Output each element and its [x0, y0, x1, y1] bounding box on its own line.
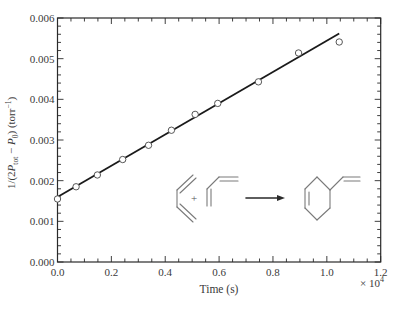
x-tick-label: 0.6 — [212, 266, 226, 278]
x-tick-label: 0.4 — [158, 266, 172, 278]
x-multiplier-base: × 10 — [360, 277, 380, 289]
chart: 0.00.20.40.60.81.01.20.0000.0010.0020.00… — [0, 0, 398, 310]
axis-tick-labels: 0.00.20.40.60.81.01.20.0000.0010.0020.00… — [30, 12, 388, 278]
butadiene-molecule-2 — [207, 177, 238, 206]
data-point-circle — [215, 100, 221, 106]
plot-border — [58, 18, 381, 262]
x-tick-label: 0.8 — [266, 266, 280, 278]
y-tick-label: 0.001 — [30, 215, 55, 227]
y-tick-label: 0.006 — [30, 12, 55, 24]
data-point-circle — [255, 79, 261, 85]
data-point-circle — [336, 39, 342, 45]
data-point-circle — [94, 172, 100, 178]
axis-ticks — [58, 18, 381, 262]
reaction-arrow-icon — [246, 195, 285, 201]
data-point-circle — [295, 50, 301, 56]
y-axis-label: 1/(2Ptot − P0) (torr−1) — [4, 97, 20, 190]
reaction-plus-sign: + — [191, 192, 197, 204]
x-multiplier: × 104 — [360, 275, 384, 289]
vinylcyclohexene-molecule — [305, 177, 360, 220]
y-tick-label: 0.002 — [30, 175, 55, 187]
data-point-circle — [54, 196, 60, 202]
x-axis-label: Time (s) — [200, 283, 239, 296]
y-tick-label: 0.005 — [30, 53, 55, 65]
data-points — [54, 39, 342, 202]
y-tick-label: 0.003 — [30, 134, 55, 146]
reaction-scheme-inset — [177, 175, 360, 222]
data-point-circle — [73, 184, 79, 190]
x-tick-label: 0.2 — [104, 266, 118, 278]
y-tick-label: 0.000 — [30, 256, 55, 268]
x-multiplier-exp: 4 — [380, 275, 384, 284]
data-point-circle — [192, 111, 198, 117]
data-point-circle — [119, 156, 125, 162]
data-point-circle — [145, 142, 151, 148]
y-tick-label: 0.004 — [30, 93, 55, 105]
data-point-circle — [168, 127, 174, 133]
x-tick-label: 1.0 — [320, 266, 334, 278]
plot-frame — [58, 18, 381, 262]
